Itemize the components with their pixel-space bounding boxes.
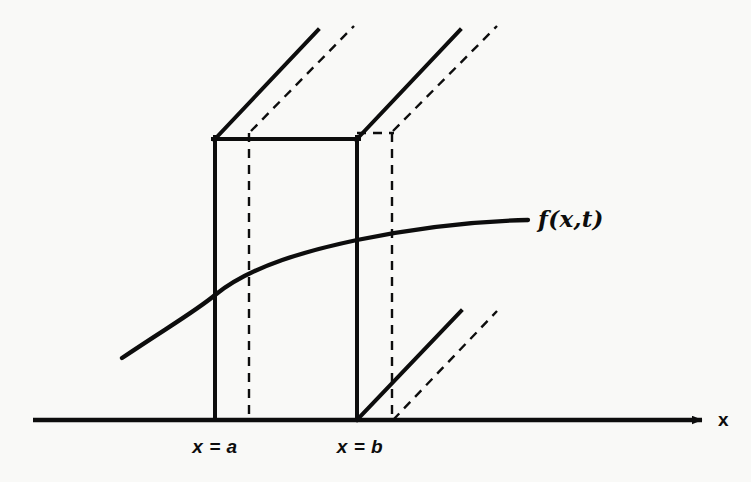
diagram-svg bbox=[0, 0, 751, 482]
left-upper-diagonal bbox=[214, 30, 318, 140]
figure-canvas: x = a x = b x f(x,t) bbox=[0, 0, 751, 482]
x-axis-label: x bbox=[718, 410, 729, 429]
right-back-diagonal-dashed bbox=[393, 26, 497, 131]
right-upper-diagonal bbox=[356, 30, 460, 140]
function-curve bbox=[122, 220, 528, 358]
left-back-diagonal-dashed bbox=[251, 26, 354, 131]
tick-label-x-equals-b: x = b bbox=[337, 437, 383, 456]
tick-label-x-equals-a: x = a bbox=[192, 437, 237, 456]
function-label: f(x,t) bbox=[538, 207, 604, 230]
